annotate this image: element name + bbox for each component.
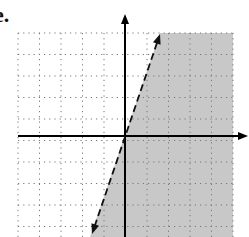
inequality-graph [0, 0, 249, 237]
